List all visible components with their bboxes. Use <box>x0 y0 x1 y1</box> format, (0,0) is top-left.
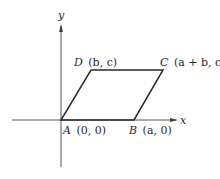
coordinate-diagram: y x D (b, c) C (a + b, c) A (0, 0) B (a,… <box>0 0 220 179</box>
point-label-a: A (0, 0) <box>62 124 106 137</box>
x-axis-label: x <box>180 114 187 127</box>
point-label-c: C (a + b, c) <box>160 56 220 69</box>
y-axis-label: y <box>57 9 65 22</box>
point-label-b: B (a, 0) <box>128 124 172 137</box>
x-axis-arrow-icon <box>170 118 178 122</box>
parallelogram-abcd <box>61 70 163 120</box>
point-label-d: D (b, c) <box>73 56 117 69</box>
y-axis-arrow-icon <box>59 24 63 32</box>
